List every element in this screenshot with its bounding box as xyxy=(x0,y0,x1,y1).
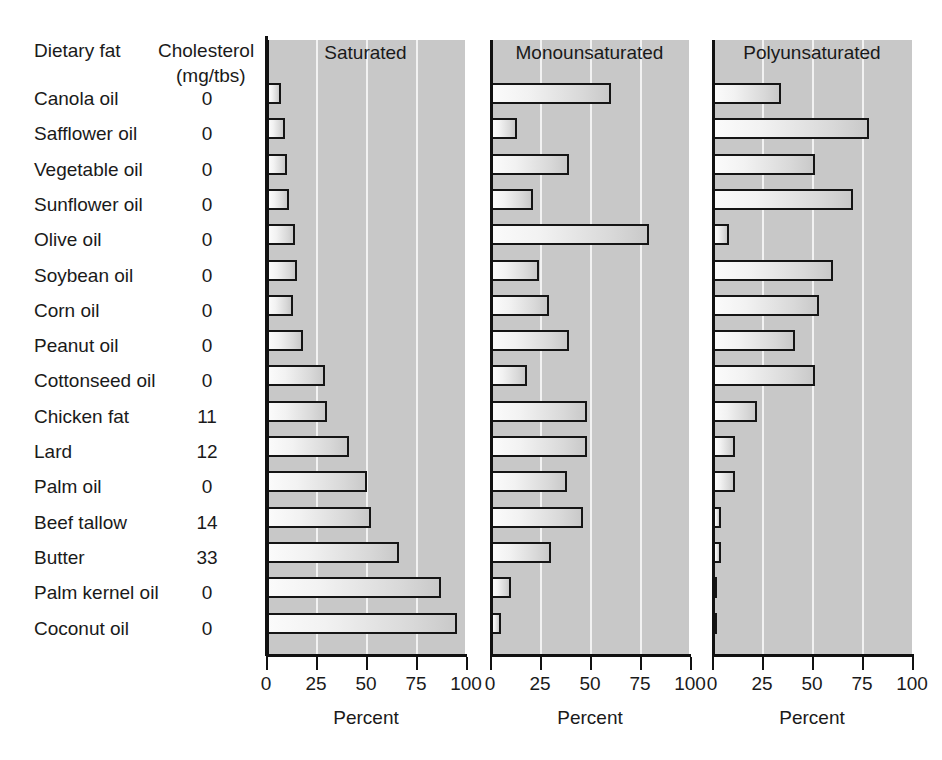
x-axis-title: Percent xyxy=(266,707,466,729)
table-row: Safflower oil0 xyxy=(0,123,266,149)
cholesterol-value: 0 xyxy=(186,123,228,145)
bar xyxy=(713,224,729,245)
table-row: Corn oil0 xyxy=(0,300,266,326)
bar xyxy=(713,330,795,351)
dietary-fat-name: Chicken fat xyxy=(34,406,129,428)
bar xyxy=(713,154,815,175)
gridline-50 xyxy=(590,40,592,655)
x-axis-line xyxy=(266,654,467,657)
table-row: Chicken fat11 xyxy=(0,406,266,432)
bar xyxy=(713,118,869,139)
dietary-fat-label-column: Dietary fat Cholesterol (mg/tbs) Canola … xyxy=(0,0,266,700)
panel-title: Monounsaturated xyxy=(490,42,689,64)
cholesterol-value: 0 xyxy=(186,159,228,181)
cholesterol-value: 0 xyxy=(186,476,228,498)
bar xyxy=(267,436,349,457)
table-row: Palm oil0 xyxy=(0,476,266,502)
x-tick-label: 100 xyxy=(889,673,935,695)
bar xyxy=(713,260,833,281)
bar xyxy=(267,577,441,598)
table-row: Sunflower oil0 xyxy=(0,194,266,220)
bar xyxy=(267,224,295,245)
bar xyxy=(713,471,735,492)
bar xyxy=(713,83,781,104)
y-axis-line xyxy=(266,40,269,655)
bar xyxy=(491,154,569,175)
bar xyxy=(267,542,399,563)
gridline-75 xyxy=(640,40,642,655)
table-header-unit-row: (mg/tbs) xyxy=(0,65,266,89)
x-tick-label: 0 xyxy=(689,673,735,695)
x-tick xyxy=(540,657,542,670)
table-row: Peanut oil0 xyxy=(0,335,266,361)
gridline-75 xyxy=(416,40,418,655)
dietary-fat-name: Beef tallow xyxy=(34,512,127,534)
cholesterol-value: 0 xyxy=(186,618,228,640)
x-tick xyxy=(490,657,492,670)
x-tick xyxy=(862,657,864,670)
x-tick-label: 50 xyxy=(789,673,835,695)
x-tick xyxy=(640,657,642,670)
y-axis-line xyxy=(712,40,715,655)
bar xyxy=(713,436,735,457)
x-axis-line xyxy=(712,654,914,657)
dietary-fat-name: Safflower oil xyxy=(34,123,137,145)
bar xyxy=(491,330,569,351)
bar xyxy=(491,118,517,139)
cholesterol-value: 11 xyxy=(186,406,228,428)
x-axis-title: Percent xyxy=(712,707,912,729)
dietary-fat-name: Lard xyxy=(34,441,72,463)
x-tick xyxy=(712,657,714,670)
table-row: Cottonseed oil0 xyxy=(0,370,266,396)
bar xyxy=(491,295,549,316)
chart-panel-saturated: Saturated xyxy=(266,40,465,655)
x-tick-label: 75 xyxy=(617,673,663,695)
bar xyxy=(713,189,853,210)
dietary-fat-composition-figure: Dietary fat Cholesterol (mg/tbs) Canola … xyxy=(0,0,942,760)
bar xyxy=(267,471,367,492)
table-row: Beef tallow14 xyxy=(0,512,266,538)
panel-title: Polyunsaturated xyxy=(712,42,912,64)
x-tick-label: 75 xyxy=(839,673,885,695)
table-header-row: Dietary fat Cholesterol xyxy=(0,40,266,64)
x-tick xyxy=(416,657,418,670)
bar xyxy=(267,401,327,422)
x-tick xyxy=(690,657,692,670)
dietary-fat-name: Olive oil xyxy=(34,229,102,251)
cholesterol-value: 14 xyxy=(186,512,228,534)
x-tick xyxy=(912,657,914,670)
bar xyxy=(267,83,281,104)
cholesterol-value: 0 xyxy=(186,194,228,216)
x-tick-label: 75 xyxy=(393,673,439,695)
bar xyxy=(713,401,757,422)
bar xyxy=(491,577,511,598)
x-tick xyxy=(366,657,368,670)
bar xyxy=(713,365,815,386)
dietary-fat-name: Butter xyxy=(34,547,85,569)
x-tick xyxy=(590,657,592,670)
bar xyxy=(267,295,293,316)
dietary-fat-name: Soybean oil xyxy=(34,265,133,287)
y-axis-line xyxy=(490,40,493,655)
bar xyxy=(491,365,527,386)
table-row: Lard12 xyxy=(0,441,266,467)
x-tick xyxy=(266,657,268,670)
column-header-cholesterol: Cholesterol xyxy=(158,40,254,62)
bar xyxy=(491,436,587,457)
table-row: Butter33 xyxy=(0,547,266,573)
bar xyxy=(491,189,533,210)
dietary-fat-name: Palm oil xyxy=(34,476,102,498)
table-row: Canola oil0 xyxy=(0,88,266,114)
bar xyxy=(267,118,285,139)
x-tick-label: 0 xyxy=(243,673,289,695)
bar xyxy=(267,189,289,210)
x-axis-title: Percent xyxy=(490,707,690,729)
x-tick xyxy=(466,657,468,670)
x-tick-label: 50 xyxy=(343,673,389,695)
dietary-fat-name: Peanut oil xyxy=(34,335,119,357)
cholesterol-value: 0 xyxy=(186,335,228,357)
bar xyxy=(713,295,819,316)
cholesterol-value: 0 xyxy=(186,370,228,392)
x-tick xyxy=(762,657,764,670)
bar xyxy=(491,224,649,245)
